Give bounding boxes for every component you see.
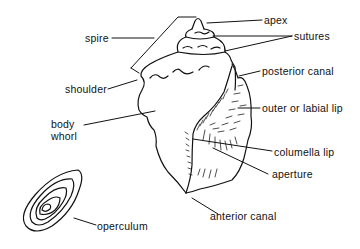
leader-apex <box>207 20 262 23</box>
label-aperture: aperture <box>272 168 313 180</box>
leader-columella-lip <box>193 139 272 151</box>
leader-posterior-canal <box>239 71 260 76</box>
label-shoulder: shoulder <box>65 83 107 95</box>
shell-diagram: apex sutures spire posterior canal shoul… <box>0 0 360 249</box>
leader-sutures-2 <box>225 36 292 51</box>
outer-lip <box>186 64 252 193</box>
label-body-whorl-2: whorl <box>51 130 77 142</box>
shell-outline <box>138 52 186 193</box>
label-spire: spire <box>85 32 109 44</box>
label-columella-lip: columella lip <box>274 146 334 158</box>
label-body-whorl-1: body <box>51 118 75 130</box>
leader-aperture <box>213 148 268 174</box>
label-apex: apex <box>264 14 288 26</box>
leader-body-whorl <box>84 111 155 125</box>
apex-shape <box>192 19 204 30</box>
label-outer-lip: outer or labial lip <box>262 102 343 114</box>
operculum-shape <box>23 170 81 231</box>
leader-operculum <box>74 218 96 225</box>
columella <box>186 66 232 193</box>
spire-bracket <box>131 17 196 68</box>
label-posterior-canal: posterior canal <box>262 65 334 77</box>
label-operculum: operculum <box>97 220 148 232</box>
leader-shoulder <box>108 80 137 89</box>
label-anterior-canal: anterior canal <box>210 210 276 222</box>
label-sutures: sutures <box>294 30 330 42</box>
